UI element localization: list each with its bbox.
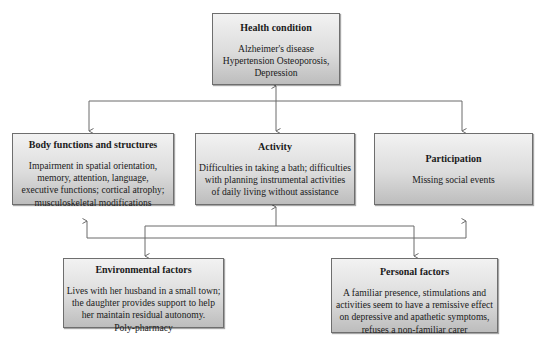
node-line: of daily living without assistance <box>196 186 354 198</box>
node-title: Body functions and structures <box>13 139 173 151</box>
node-line: executive functions; cortical atrophy; <box>13 184 173 196</box>
node-line: her maintain residual autonomy. <box>64 309 223 321</box>
node-line: Missing social events <box>375 174 532 186</box>
node-line: Depression <box>213 67 339 79</box>
node-line: on depressive and apathetic symptoms, <box>332 311 497 323</box>
node-line: Hypertension Osteoporosis, <box>213 55 339 67</box>
node-line: Difficulties in taking a bath; difficult… <box>196 162 354 174</box>
node-line: Lives with her husband in a small town; <box>64 285 223 297</box>
node-health-condition: Health condition Alzheimer's disease Hyp… <box>212 13 340 85</box>
node-line: the daughter provides support to help <box>64 297 223 309</box>
node-participation: Participation Missing social events <box>374 133 533 205</box>
node-body-functions: Body functions and structures Impairment… <box>12 133 174 205</box>
node-title: Personal factors <box>332 266 497 278</box>
node-title: Health condition <box>213 22 339 34</box>
node-line: A familiar presence, stimulations and <box>332 287 497 299</box>
node-line: memory, attention, language, <box>13 172 173 184</box>
node-line: refuses a non-familiar carer <box>332 324 497 336</box>
node-title: Environmental factors <box>64 264 223 276</box>
node-title: Activity <box>196 141 354 153</box>
node-line: Poly-pharmacy <box>64 322 223 334</box>
node-title: Participation <box>375 153 532 165</box>
node-line: Impairment in spatial orientation, <box>13 160 173 172</box>
node-line: with planning instrumental activities <box>196 174 354 186</box>
node-line: Alzheimer's disease <box>213 43 339 55</box>
node-line: musculoskeletal modifications <box>13 197 173 209</box>
node-environmental-factors: Environmental factors Lives with her hus… <box>63 258 224 328</box>
node-activity: Activity Difficulties in taking a bath; … <box>195 133 355 205</box>
node-personal-factors: Personal factors A familiar presence, st… <box>331 258 498 333</box>
node-line: activities seem to have a remissive effe… <box>332 299 497 311</box>
